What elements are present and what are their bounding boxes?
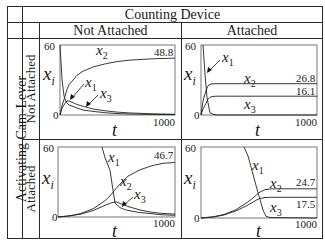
x-max-tick: 1000 xyxy=(295,117,317,128)
outer-border-bottom xyxy=(7,238,323,239)
y-min-tick: 0 xyxy=(52,212,58,223)
y-max-tick: 60 xyxy=(43,143,54,154)
x-axis-label: t xyxy=(255,121,260,139)
series-label-x3: x3 xyxy=(244,97,256,117)
y-max-tick: 60 xyxy=(185,41,196,52)
x-max-tick: 1000 xyxy=(153,218,175,229)
x-max-tick: 1000 xyxy=(153,117,175,128)
column-header-attached: Attached xyxy=(182,23,322,39)
x-axis-label: t xyxy=(112,222,117,240)
arrow-x1-head xyxy=(207,67,212,73)
series-label-x3: x3 xyxy=(270,200,282,220)
y-axis-label: xi xyxy=(184,168,196,195)
final-value-x2: 24.7 xyxy=(296,177,315,188)
x-axis-label: t xyxy=(112,121,117,139)
outer-border-right xyxy=(322,6,323,239)
series-label-x1: x1 xyxy=(252,158,264,178)
series-label-x1: x1 xyxy=(85,75,97,95)
plot-not-attached-attached: 60 0 1000 xi t x1 x2 x3 26.8 16.1 xyxy=(182,39,322,139)
plot-not-attached-not-attached: 60 0 1000 xi t x2 x1 x3 48.8 xyxy=(40,39,181,139)
y-max-tick: 60 xyxy=(185,143,196,154)
y-min-tick: 0 xyxy=(194,110,200,121)
final-value-x3: 17.5 xyxy=(296,199,315,210)
series-label-x3: x3 xyxy=(100,86,112,106)
series-label-x1: x1 xyxy=(222,50,234,70)
series-x2 xyxy=(58,163,175,218)
arrow-x3-head xyxy=(86,101,91,107)
series-label-x2: x2 xyxy=(96,43,108,63)
final-value-x2: 48.8 xyxy=(154,47,173,58)
final-value-x2: 26.8 xyxy=(296,73,315,84)
row-header-attached: Attached xyxy=(24,149,38,229)
column-header-not-attached: Not Attached xyxy=(40,23,181,39)
column-group-header: Counting Device xyxy=(23,7,322,23)
plot-attached-not-attached: 60 0 1000 xi t x1 x2 x3 46.7 xyxy=(40,140,181,238)
y-axis-label: xi xyxy=(43,64,55,91)
series-label-x3: x3 xyxy=(134,187,146,207)
y-min-tick: 0 xyxy=(53,110,59,121)
series-x2 xyxy=(60,58,175,115)
series-x3 xyxy=(201,96,317,115)
outer-border-left xyxy=(7,6,8,239)
y-min-tick: 0 xyxy=(194,213,200,224)
x-axis-label: t xyxy=(256,222,261,240)
series-label-x2: x2 xyxy=(270,176,282,196)
y-axis-label: xi xyxy=(42,168,54,195)
plot-attached-attached: 60 0 1000 xi t x1 x2 x3 24.7 17.5 xyxy=(182,140,322,238)
series-label-x2: x2 xyxy=(244,71,256,91)
series-label-x1: x1 xyxy=(108,150,120,170)
y-axis-label: xi xyxy=(184,64,196,91)
row-header-not-attached: Not Attached xyxy=(24,49,38,129)
final-value-x3: 16.1 xyxy=(296,86,315,97)
series-label-x2: x2 xyxy=(120,174,132,194)
y-max-tick: 60 xyxy=(44,41,55,52)
arrow-x1 xyxy=(72,84,84,98)
x-max-tick: 1000 xyxy=(295,219,317,230)
final-value-x2: 46.7 xyxy=(154,150,173,161)
